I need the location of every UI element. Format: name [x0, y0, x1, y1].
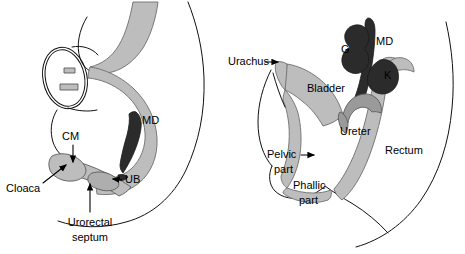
label-ub: UB — [125, 173, 140, 185]
right-perineum-outline — [325, 186, 388, 233]
label-urorectal-septum-line1: Urorectal — [68, 216, 113, 228]
anatomy-figure: CM MD UB Cloaca Urorectal septum — [0, 0, 465, 254]
urorectal-septum-shape — [88, 172, 119, 191]
label-kidney: K — [384, 69, 392, 81]
label-pelvic-part-line2: part — [274, 163, 293, 175]
label-phallic-part-line1: Phallic — [293, 179, 326, 191]
label-cm: CM — [62, 130, 79, 142]
label-md-right: MD — [376, 35, 393, 47]
label-bladder: Bladder — [307, 82, 345, 94]
label-ureter: Ureter — [340, 125, 371, 137]
label-urorectal-septum-line2: septum — [72, 231, 108, 243]
label-gonad: G — [341, 43, 350, 55]
label-pelvic-part-line1: Pelvic — [267, 148, 297, 160]
left-panel-group: CM MD UB Cloaca Urorectal septum — [6, 2, 204, 243]
label-urachus: Urachus — [228, 55, 269, 67]
figure-canvas: CM MD UB Cloaca Urorectal septum — [0, 0, 465, 254]
inset-tube-upper — [64, 68, 75, 73]
right-panel-group: Urachus G MD K Bladder Ureter Rectum Pel… — [228, 18, 453, 247]
allantois-hindgut-band — [90, 2, 158, 73]
label-phallic-part-line2: part — [299, 194, 318, 206]
label-cloaca: Cloaca — [6, 182, 41, 194]
label-md-left: MD — [142, 114, 159, 126]
cloaca-chamber — [49, 154, 86, 181]
inset-tube-lower — [60, 84, 78, 90]
label-rectum: Rectum — [385, 144, 423, 156]
